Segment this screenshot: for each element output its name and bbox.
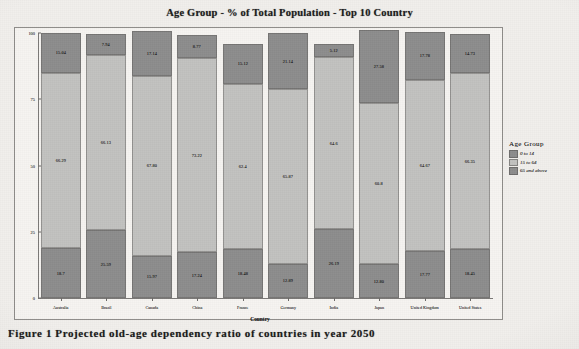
bar-segment-label: 15.04: [56, 50, 66, 55]
x-axis-tick-mark: [61, 298, 62, 301]
bar-segment[interactable]: 14.73: [450, 34, 490, 73]
x-axis-tick-label: United States: [459, 305, 481, 310]
bar-column[interactable]: 17.2473.228.77: [177, 33, 217, 298]
bar-segment-label: 60.8: [375, 181, 383, 186]
bar-column[interactable]: 15.9767.8017.14: [132, 33, 172, 298]
bar-column[interactable]: 12.8060.827.58: [359, 33, 399, 298]
bar-segment-label: 67.80: [147, 163, 157, 168]
bar-segment-label: 65.87: [283, 174, 293, 179]
bar-column[interactable]: 26.1964.65.12: [314, 33, 354, 298]
chart-title: Age Group - % of Total Population - Top …: [0, 7, 579, 18]
bar-segment-label: 15.97: [147, 274, 157, 279]
legend-item[interactable]: 15 to 64: [509, 159, 575, 167]
bar-segment-label: 64.67: [420, 163, 430, 168]
bar-column[interactable]: 18.766.2915.04: [41, 33, 81, 298]
y-axis-tick-label: 75: [31, 97, 35, 102]
bar-segment-label: 66.35: [465, 159, 475, 164]
bar-column[interactable]: 25.5966.137.94: [86, 33, 126, 298]
y-axis-tick-label: 25: [31, 229, 35, 234]
bar-segment[interactable]: 15.97: [132, 256, 172, 298]
bar-segment-label: 26.19: [329, 261, 339, 266]
x-axis-tick-mark: [106, 298, 107, 301]
bar-segment-label: 7.94: [102, 42, 110, 47]
y-axis-tick-label: 50: [31, 163, 35, 168]
legend-item[interactable]: 0 to 14: [509, 150, 575, 158]
x-axis-tick-label: Japan: [374, 305, 384, 310]
bar-segment[interactable]: 64.67: [405, 80, 445, 251]
bar-segment[interactable]: 15.04: [41, 33, 81, 73]
x-axis-tick-mark: [288, 298, 289, 301]
bar-segment-label: 12.89: [283, 278, 293, 283]
bar-segment[interactable]: 66.35: [450, 73, 490, 249]
x-axis-tick-label: India: [329, 305, 338, 310]
bar-segment[interactable]: 18.45: [450, 249, 490, 298]
bar-segment-label: 17.78: [420, 53, 430, 58]
x-axis-tick-mark: [470, 298, 471, 301]
bar-segment[interactable]: 17.77: [405, 251, 445, 298]
bar-column[interactable]: 12.8965.8721.14: [268, 33, 308, 298]
bar-segment[interactable]: 18.7: [41, 248, 81, 298]
legend-items: 0 to 1415 to 6465 and above: [509, 150, 575, 175]
legend-item[interactable]: 65 and above: [509, 167, 575, 175]
legend-item-label: 15 to 64: [520, 160, 536, 165]
bar-segment[interactable]: 21.14: [268, 33, 308, 89]
x-axis-tick-mark: [425, 298, 426, 301]
legend-item-label: 65 and above: [520, 168, 547, 173]
bar-segment[interactable]: 15.12: [223, 44, 263, 84]
bar-segment[interactable]: 64.6: [314, 57, 354, 228]
bar-segment[interactable]: 66.29: [41, 73, 81, 249]
bar-segment-label: 17.24: [192, 273, 202, 278]
bar-segment-label: 25.59: [101, 261, 111, 266]
bar-segment-label: 12.80: [374, 278, 384, 283]
bar-segment-label: 66.29: [56, 158, 66, 163]
legend: Age Group 0 to 1415 to 6465 and above: [509, 140, 575, 176]
bar-segment-label: 14.73: [465, 51, 475, 56]
bar-segment[interactable]: 67.80: [132, 76, 172, 256]
bar-segment[interactable]: 7.94: [86, 34, 126, 55]
bar-segment[interactable]: 12.80: [359, 264, 399, 298]
bar-segment[interactable]: 17.14: [132, 31, 172, 76]
bar-segment[interactable]: 17.24: [177, 252, 217, 298]
x-axis-tick-label: United Kingdom: [411, 305, 439, 310]
plot-area: 18.766.2915.0425.5966.137.9415.9767.8017…: [38, 33, 493, 298]
bar-column[interactable]: 17.7764.6717.78: [405, 33, 445, 298]
bar-segment[interactable]: 62.4: [223, 84, 263, 249]
bar-segment[interactable]: 66.13: [86, 55, 126, 230]
bar-segment[interactable]: 25.59: [86, 230, 126, 298]
bar-segment[interactable]: 8.77: [177, 35, 217, 58]
figure-caption: Figure 1 Projected old-age dependency ra…: [8, 327, 568, 339]
bar-segment[interactable]: 73.22: [177, 58, 217, 252]
bar-segment-label: 18.48: [238, 271, 248, 276]
legend-title: Age Group: [509, 140, 575, 148]
legend-swatch: [509, 167, 518, 175]
bar-segment-label: 62.4: [239, 164, 247, 169]
x-axis-tick-mark: [243, 298, 244, 301]
bar-segment-label: 5.12: [330, 48, 338, 53]
bar-segment-label: 64.6: [330, 140, 338, 145]
bar-segment[interactable]: 26.19: [314, 229, 354, 298]
bar-segment[interactable]: 60.8: [359, 103, 399, 264]
bar-column[interactable]: 18.4566.3514.73: [450, 33, 490, 298]
bar-segment[interactable]: 5.12: [314, 44, 354, 58]
bar-segment-label: 18.7: [57, 271, 65, 276]
y-axis-tick-label: 100: [28, 31, 35, 36]
x-axis-tick-mark: [379, 298, 380, 301]
legend-swatch: [509, 159, 518, 167]
legend-swatch: [509, 150, 518, 158]
bar-segment-label: 17.14: [147, 51, 157, 56]
bar-segment-label: 18.45: [465, 271, 475, 276]
bar-segment[interactable]: 18.48: [223, 249, 263, 298]
bar-segment[interactable]: 12.89: [268, 264, 308, 298]
legend-item-label: 0 to 14: [520, 151, 534, 156]
bar-segment-label: 27.58: [374, 64, 384, 69]
figure-container: Age Group - % of Total Population - Top …: [0, 0, 579, 349]
bar-segment[interactable]: 17.78: [405, 32, 445, 79]
bar-segment[interactable]: 27.58: [359, 30, 399, 103]
x-axis-tick-label: Canada: [145, 305, 158, 310]
x-axis-tick-label: Germany: [280, 305, 296, 310]
bar-segment-label: 21.14: [283, 59, 293, 64]
bar-column[interactable]: 18.4862.415.12: [223, 33, 263, 298]
bar-segment-label: 66.13: [101, 140, 111, 145]
bar-segment[interactable]: 65.87: [268, 89, 308, 264]
x-axis-tick-mark: [152, 298, 153, 301]
